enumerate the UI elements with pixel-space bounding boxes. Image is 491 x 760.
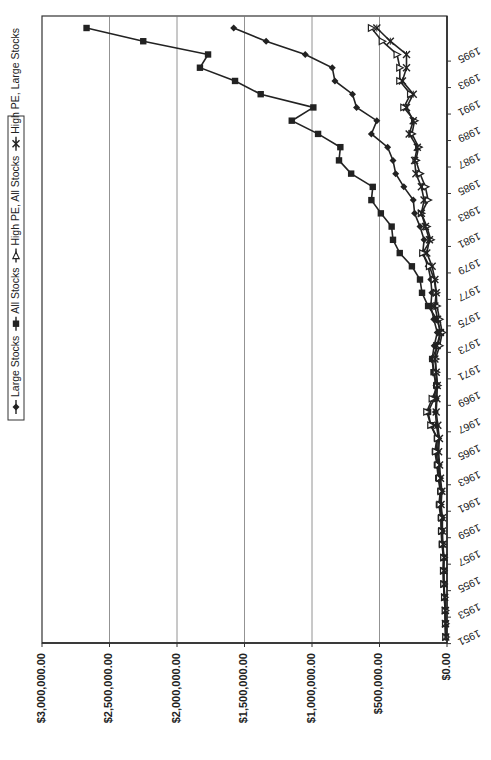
data-point <box>258 91 264 97</box>
year-tick-label: 1995 <box>456 45 482 66</box>
value-tick-label: $500,000.00 <box>372 653 384 714</box>
data-point <box>409 263 415 269</box>
year-tick-label: 1975 <box>456 310 482 331</box>
data-point <box>348 170 354 176</box>
year-tick-label: 1983 <box>456 204 482 225</box>
data-point <box>417 276 423 282</box>
legend-label: All Stocks <box>9 268 21 314</box>
year-tick-label: 1979 <box>456 257 482 278</box>
data-point <box>370 184 376 190</box>
data-point <box>425 303 431 309</box>
year-tick-label: 1973 <box>456 336 482 357</box>
data-point <box>140 38 146 44</box>
legend-marker <box>13 321 19 327</box>
year-tick-label: 1955 <box>456 575 482 596</box>
data-point <box>390 237 396 243</box>
year-tick-label: 1951 <box>456 628 482 649</box>
year-tick-label: 1967 <box>456 416 482 437</box>
legend-label: High PE, Large Stocks <box>9 28 21 134</box>
year-axis-tick-labels: 1951195319551957195919611963196519671969… <box>447 45 483 648</box>
year-tick-label: 1965 <box>456 442 482 463</box>
legend-label: Large Stocks <box>9 336 21 397</box>
year-tick-label: 1991 <box>456 98 482 119</box>
value-tick-label: $1,000,000.00 <box>305 653 317 723</box>
legend: Large StocksAll StocksHigh PE, All Stock… <box>8 28 24 420</box>
year-tick-label: 1957 <box>456 548 482 569</box>
value-tick-label: $0.00 <box>440 653 452 681</box>
legend-label: High PE, All Stocks <box>9 156 21 246</box>
value-tick-label: $2,000,000.00 <box>170 653 182 723</box>
year-tick-label: 1987 <box>456 151 482 172</box>
data-point <box>397 250 403 256</box>
data-point <box>232 78 238 84</box>
data-point <box>419 290 425 296</box>
year-tick-label: 1969 <box>456 389 482 410</box>
data-point <box>315 131 321 137</box>
legend-item: High PE, All Stocks <box>9 156 21 263</box>
data-point <box>205 51 211 57</box>
value-tick-label: $3,000,000.00 <box>35 653 47 723</box>
data-point <box>378 210 384 216</box>
chart: $0.00$500,000.00$1,000,000.00$1,500,000.… <box>0 0 491 760</box>
data-point <box>337 144 343 150</box>
year-tick-label: 1959 <box>456 522 482 543</box>
data-point <box>197 65 203 71</box>
data-point <box>388 223 394 229</box>
year-tick-label: 1977 <box>456 284 482 305</box>
data-point <box>368 197 374 203</box>
year-tick-label: 1963 <box>456 469 482 490</box>
value-tick-label: $1,500,000.00 <box>237 653 249 723</box>
data-point <box>83 25 89 31</box>
value-tick-label: $2,500,000.00 <box>102 653 114 723</box>
legend-item: High PE, Large Stocks <box>9 28 21 151</box>
year-tick-label: 1989 <box>456 125 482 146</box>
value-axis-tick-labels: $0.00$500,000.00$1,000,000.00$1,500,000.… <box>35 643 452 723</box>
data-point <box>310 104 316 110</box>
year-tick-label: 1993 <box>456 72 482 93</box>
data-point <box>289 117 295 123</box>
year-tick-label: 1971 <box>456 363 482 384</box>
year-tick-label: 1981 <box>456 231 482 252</box>
year-tick-label: 1961 <box>456 495 482 516</box>
data-point <box>336 157 342 163</box>
year-tick-label: 1953 <box>456 601 482 622</box>
year-tick-label: 1985 <box>456 178 482 199</box>
